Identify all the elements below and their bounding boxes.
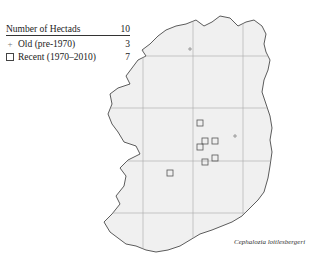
species-caption: Cephalozia loitlesbergeri [234, 238, 305, 246]
ireland-outline [104, 16, 272, 252]
distribution-map [0, 0, 327, 269]
